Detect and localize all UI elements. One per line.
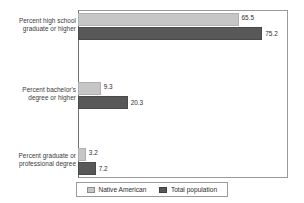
bar-value-total-population-bachelors: 20.3 [131, 99, 143, 107]
bar-value-total-population-high-school: 75.2 [265, 30, 277, 38]
legend-item-total-population: Total population [159, 186, 217, 194]
bar-total-population-bachelors [78, 96, 128, 109]
category-label-0-line-0: Percent high school [4, 17, 76, 25]
bar-chart: Percent high school graduate or higher P… [0, 0, 304, 203]
category-label-2: Percent graduate or professional degree [4, 152, 76, 168]
chart-legend: Native American Total population [76, 182, 228, 197]
category-label-2-line-1: professional degree [4, 160, 76, 168]
bar-value-native-american-graduate: 3.2 [89, 149, 98, 157]
category-label-1: Percent bachelor's degree or higher [4, 86, 76, 102]
category-label-2-line-0: Percent graduate or [4, 152, 76, 160]
legend-label-native-american: Native American [98, 186, 146, 194]
legend-swatch-total-population-icon [159, 187, 167, 193]
category-label-0: Percent high school graduate or higher [4, 17, 76, 33]
category-label-0-line-1: graduate or higher [4, 25, 76, 33]
bar-native-american-graduate [78, 148, 86, 161]
category-label-1-line-1: degree or higher [4, 94, 76, 102]
legend-item-native-american: Native American [87, 186, 147, 194]
legend-swatch-native-american-icon [87, 187, 95, 193]
bar-value-native-american-high-school: 65.5 [242, 14, 254, 22]
bar-value-total-population-graduate: 7.2 [99, 165, 108, 173]
bar-total-population-high-school [78, 27, 262, 40]
bar-native-american-bachelors [78, 82, 101, 95]
bar-native-american-high-school [78, 13, 239, 26]
bar-total-population-graduate [78, 162, 96, 175]
legend-label-total-population: Total population [171, 186, 217, 194]
category-label-1-line-0: Percent bachelor's [4, 86, 76, 94]
bar-value-native-american-bachelors: 9.3 [104, 83, 113, 91]
